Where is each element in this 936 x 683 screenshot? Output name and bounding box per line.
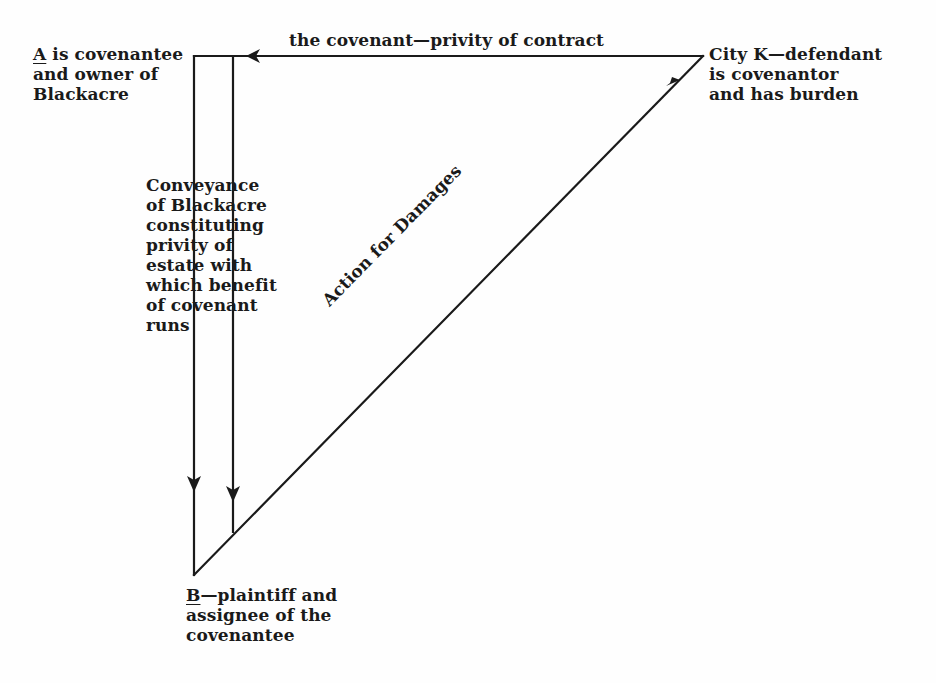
- party-b-label: B—plaintiff and assignee of the covenant…: [186, 585, 337, 645]
- conveyance-line-8: runs: [146, 315, 277, 335]
- party-k-line-2: is covenantor: [709, 64, 882, 84]
- conveyance-line-3: constituting: [146, 215, 277, 235]
- conveyance-line-1: Conveyance: [146, 175, 277, 195]
- covenant-edge-label: the covenant—privity of contract: [289, 30, 604, 50]
- party-a-line-2: and owner of: [33, 64, 183, 84]
- conveyance-line-4: privity of: [146, 235, 277, 255]
- party-a-line-3: Blackacre: [33, 84, 183, 104]
- party-b-line-1: B—plaintiff and: [186, 585, 337, 605]
- party-a-letter: A: [33, 44, 46, 64]
- party-a-text-1: is covenantee: [52, 44, 183, 64]
- party-k-label: City K—defendant is covenantor and has b…: [709, 44, 882, 104]
- party-b-text-1: —plaintiff and: [200, 585, 337, 605]
- party-b-line-3: covenantee: [186, 625, 337, 645]
- party-k-line-3: and has burden: [709, 84, 882, 104]
- party-b-letter: B: [186, 585, 200, 605]
- party-b-line-2: assignee of the: [186, 605, 337, 625]
- party-a-label: A is covenantee and owner of Blackacre: [33, 44, 183, 104]
- conveyance-line-6: which benefit: [146, 275, 277, 295]
- conveyance-line-2: of Blackacre: [146, 195, 277, 215]
- party-a-line-1: A is covenantee: [33, 44, 183, 64]
- party-k-line-1: City K—defendant: [709, 44, 882, 64]
- conveyance-edge-label: Conveyance of Blackacre constituting pri…: [146, 175, 277, 335]
- conveyance-line-7: of covenant: [146, 295, 277, 315]
- diagram-canvas: A is covenantee and owner of Blackacre C…: [0, 0, 936, 683]
- conveyance-line-5: estate with: [146, 255, 277, 275]
